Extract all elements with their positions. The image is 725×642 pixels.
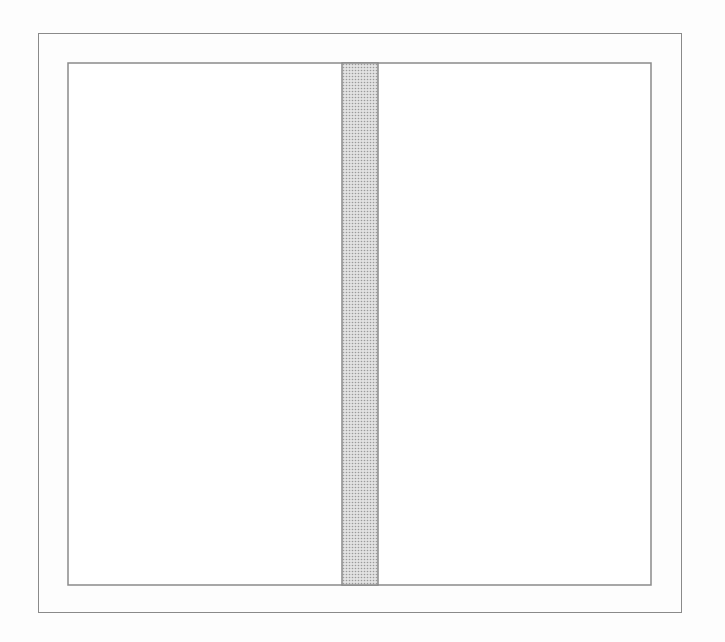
bar[interactable] xyxy=(342,63,378,585)
backgammon-board xyxy=(0,0,725,642)
